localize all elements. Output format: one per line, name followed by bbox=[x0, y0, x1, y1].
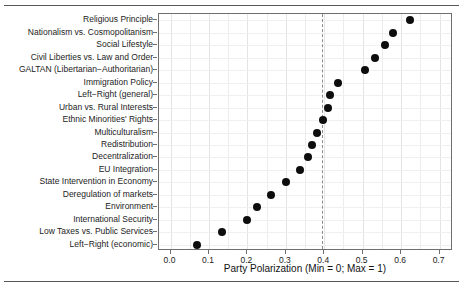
y-axis-tick-label: Left−Right (economic) bbox=[2, 239, 158, 248]
y-axis-tick-label: Urban vs. Rural Interests bbox=[2, 102, 158, 111]
y-axis-tick-label: Nationalism vs. Cosmopolitanism bbox=[2, 27, 158, 36]
gridline-horizontal bbox=[159, 170, 451, 171]
y-axis-tick-mark bbox=[153, 156, 157, 157]
x-axis-tick-mark bbox=[400, 250, 401, 254]
gridline-vertical bbox=[171, 14, 172, 249]
gridline-horizontal bbox=[159, 133, 451, 134]
data-point bbox=[334, 79, 342, 87]
gridline-horizontal bbox=[159, 83, 451, 84]
data-point bbox=[218, 228, 226, 236]
gridline-vertical bbox=[324, 14, 325, 249]
y-axis-tick-mark bbox=[153, 132, 157, 133]
y-axis-tick-mark bbox=[153, 57, 157, 58]
data-point bbox=[389, 29, 397, 37]
gridline-horizontal bbox=[159, 45, 451, 46]
gridline-horizontal bbox=[159, 120, 451, 121]
plot-panel bbox=[158, 13, 452, 250]
y-axis-tick-label: GALTAN (Libertarian−Authoritarian) bbox=[2, 65, 158, 74]
y-axis-tick-label: State Intervention in Economy bbox=[2, 177, 158, 186]
gridline-horizontal bbox=[159, 207, 451, 208]
top-divider-rule bbox=[4, 5, 459, 6]
y-axis-category-labels: Religious PrincipleNationalism vs. Cosmo… bbox=[0, 13, 158, 250]
x-axis-tick-mark bbox=[208, 250, 209, 254]
y-axis-tick-label: Immigration Policy bbox=[2, 77, 158, 86]
data-point bbox=[324, 104, 332, 112]
bottom-divider-rule bbox=[4, 281, 459, 282]
polarization-dot-chart: Religious PrincipleNationalism vs. Cosmo… bbox=[0, 0, 463, 288]
gridline-vertical-minor bbox=[343, 14, 344, 249]
data-point bbox=[243, 216, 251, 224]
data-point bbox=[253, 203, 261, 211]
y-axis-tick-label: EU Integration bbox=[2, 164, 158, 173]
gridline-horizontal bbox=[159, 145, 451, 146]
gridline-vertical-minor bbox=[382, 14, 383, 249]
data-point bbox=[304, 153, 312, 161]
gridline-horizontal bbox=[159, 95, 451, 96]
y-axis-tick-mark bbox=[153, 194, 157, 195]
data-point bbox=[319, 116, 327, 124]
gridline-horizontal bbox=[159, 245, 451, 246]
gridline-horizontal bbox=[159, 70, 451, 71]
y-axis-tick-mark bbox=[153, 244, 157, 245]
gridline-vertical-minor bbox=[420, 14, 421, 249]
y-axis-tick-label: Civil Liberties vs. Law and Order bbox=[2, 52, 158, 61]
gridline-vertical-minor bbox=[190, 14, 191, 249]
x-axis-title: Party Polarization (Min = 0; Max = 1) bbox=[158, 263, 452, 274]
y-axis-tick-mark bbox=[153, 181, 157, 182]
gridline-horizontal bbox=[159, 195, 451, 196]
gridline-horizontal bbox=[159, 108, 451, 109]
y-axis-tick-mark bbox=[153, 44, 157, 45]
y-axis-tick-mark bbox=[153, 82, 157, 83]
data-point bbox=[296, 166, 304, 174]
data-point bbox=[381, 41, 389, 49]
y-axis-tick-mark bbox=[153, 19, 157, 20]
gridline-horizontal bbox=[159, 33, 451, 34]
gridline-vertical bbox=[401, 14, 402, 249]
data-point bbox=[282, 178, 290, 186]
y-axis-tick-label: Redistribution bbox=[2, 139, 158, 148]
gridline-horizontal bbox=[159, 220, 451, 221]
y-axis-tick-label: Religious Principle bbox=[2, 15, 158, 24]
gridline-vertical bbox=[286, 14, 287, 249]
x-axis-tick-mark bbox=[323, 250, 324, 254]
y-axis-tick-label: Multiculturalism bbox=[2, 127, 158, 136]
data-point bbox=[193, 241, 201, 249]
y-axis-tick-mark bbox=[153, 107, 157, 108]
y-axis-tick-mark bbox=[153, 231, 157, 232]
data-point bbox=[313, 129, 321, 137]
y-axis-tick-mark bbox=[153, 144, 157, 145]
data-point bbox=[361, 66, 369, 74]
y-axis-tick-mark bbox=[153, 32, 157, 33]
x-axis-tick-mark bbox=[439, 250, 440, 254]
data-point bbox=[308, 141, 316, 149]
data-point bbox=[267, 191, 275, 199]
y-axis-tick-label: Social Lifestyle bbox=[2, 40, 158, 49]
y-axis-tick-mark bbox=[153, 169, 157, 170]
y-axis-tick-mark bbox=[153, 206, 157, 207]
gridline-vertical bbox=[247, 14, 248, 249]
x-axis-tick-mark bbox=[285, 250, 286, 254]
gridline-horizontal bbox=[159, 58, 451, 59]
gridline-vertical-minor bbox=[228, 14, 229, 249]
gridline-vertical-minor bbox=[267, 14, 268, 249]
gridline-horizontal bbox=[159, 182, 451, 183]
mean-reference-line bbox=[322, 14, 323, 249]
x-axis-tick-mark bbox=[246, 250, 247, 254]
data-point bbox=[406, 16, 414, 24]
gridline-vertical bbox=[209, 14, 210, 249]
x-axis-tick-mark bbox=[362, 250, 363, 254]
gridline-horizontal bbox=[159, 232, 451, 233]
y-axis-tick-label: Ethnic Minorities' Rights bbox=[2, 115, 158, 124]
x-axis-tick-mark bbox=[170, 250, 171, 254]
y-axis-tick-label: Low Taxes vs. Public Services bbox=[2, 227, 158, 236]
y-axis-tick-mark bbox=[153, 119, 157, 120]
y-axis-tick-label: Left−Right (general) bbox=[2, 90, 158, 99]
gridline-vertical-minor bbox=[305, 14, 306, 249]
y-axis-tick-label: Environment bbox=[2, 202, 158, 211]
data-point bbox=[371, 54, 379, 62]
y-axis-tick-mark bbox=[153, 94, 157, 95]
y-axis-tick-mark bbox=[153, 69, 157, 70]
y-axis-tick-label: International Security bbox=[2, 214, 158, 223]
y-axis-tick-label: Decentralization bbox=[2, 152, 158, 161]
y-axis-tick-mark bbox=[153, 219, 157, 220]
